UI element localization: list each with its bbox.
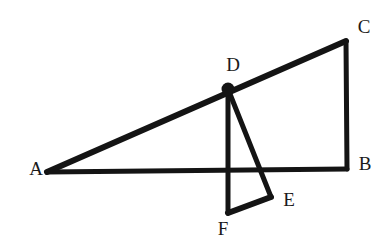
segment-AC <box>47 41 346 172</box>
vertex-label-b: B <box>359 154 372 173</box>
point-marker-d <box>222 83 235 96</box>
vertex-label-a: A <box>29 159 43 178</box>
geometry-canvas <box>0 0 387 249</box>
vertex-label-d: D <box>226 55 240 74</box>
vertex-label-f: F <box>218 219 229 238</box>
segment-CB <box>346 41 347 169</box>
vertex-label-e: E <box>283 190 295 209</box>
segment-DE <box>228 89 271 197</box>
segment-AB <box>47 169 347 172</box>
segment-FE <box>228 197 271 213</box>
point-marker-layer <box>222 83 235 96</box>
segment-layer <box>47 41 347 213</box>
vertex-label-c: C <box>358 17 371 36</box>
geometry-figure: CDABEF <box>0 0 387 249</box>
